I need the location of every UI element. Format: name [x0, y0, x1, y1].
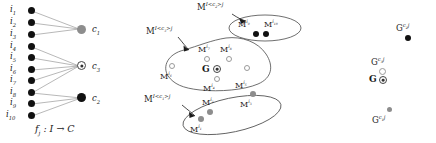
blob-label-c1: MI<c1>j	[144, 94, 170, 103]
point-label-Mi10: Mi10	[264, 19, 278, 29]
centroid-marker-G-middle	[213, 65, 221, 73]
point-marker-Mi3	[250, 91, 256, 97]
centroid-marker-Gc3j	[379, 68, 386, 75]
point-marker-Mi1	[198, 116, 204, 122]
point-marker-Mi4	[214, 76, 220, 82]
point-label-Mi3: Mi3	[240, 99, 252, 109]
point-label-Mi4: Mi4	[203, 83, 215, 93]
point-marker-Mi2	[207, 109, 213, 115]
centroid-marker-Gc2j	[405, 35, 411, 41]
point-label-Mi1: Mi1	[190, 124, 202, 134]
blob-label-c3: MI<c3>j	[146, 26, 172, 35]
point-marker-Mi8	[226, 56, 232, 62]
point-marker-Mi7	[204, 56, 210, 62]
centroid-label-Gc3j: Gc3j	[371, 57, 384, 66]
centroid-marker-G-right	[379, 76, 387, 84]
centroid-label-Gc1j: Gc1j	[372, 115, 385, 124]
point-label-Mi6: Mi6	[160, 71, 172, 81]
point-label-Mi5: Mi5	[235, 80, 247, 90]
blob-label-c2: MI<c2>j	[197, 2, 223, 11]
point-marker-Mi6	[169, 63, 175, 69]
centroid-label-G-middle: G	[202, 65, 210, 74]
point-label-Mi2: Mi2	[202, 97, 214, 107]
point-marker-Mi5	[244, 65, 250, 71]
centroid-label-G-right: G	[369, 75, 377, 84]
point-marker-Mi9	[253, 31, 259, 37]
point-marker-Mi10	[263, 31, 269, 37]
figure-canvas: i1 i2 i3 i4 i5 i6 i7 i8 i9 i10 c1 c3 c2 …	[0, 0, 436, 143]
centroid-marker-Gc1j	[387, 107, 392, 112]
point-label-Mi8: Mi8	[220, 44, 232, 54]
centroid-label-Gc2j: Gc2j	[396, 23, 409, 32]
point-label-Mi7: Mi7	[198, 44, 210, 54]
point-label-Mi9: Mi9	[238, 19, 250, 29]
